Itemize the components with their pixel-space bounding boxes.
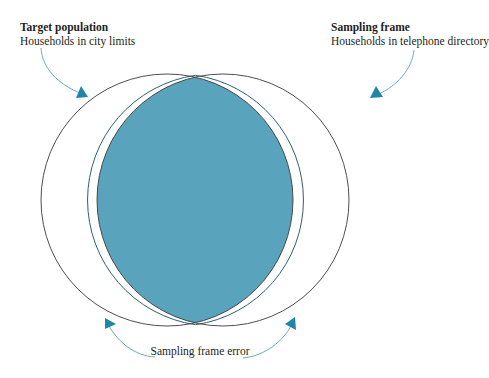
target-population-title: Target population — [20, 20, 135, 34]
overlap-region — [88, 74, 349, 326]
sampling-frame-description: Households in telephone directory — [331, 34, 489, 48]
target-population-label: Target population Households in city lim… — [20, 20, 135, 48]
target-arrow-icon — [41, 48, 88, 98]
frame-arrow-icon — [370, 50, 414, 98]
sampling-frame-label: Sampling frame Households in telephone d… — [331, 20, 489, 48]
sampling-frame-error-label: Sampling frame error — [0, 344, 400, 358]
target-population-description: Households in city limits — [20, 34, 135, 48]
sampling-frame-title: Sampling frame — [331, 20, 489, 34]
